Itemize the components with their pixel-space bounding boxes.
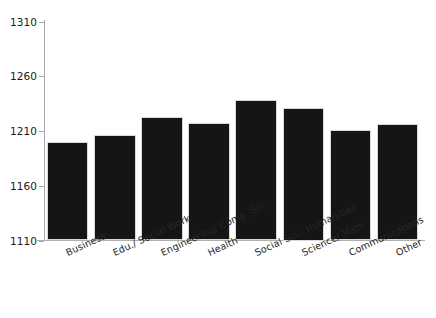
y-axis-tick-label: 1210 [0,125,37,137]
bar [47,142,89,241]
y-axis-tick [39,186,44,187]
y-axis-line [44,20,45,241]
y-axis-tick [39,131,44,132]
y-axis-tick-label: 1160 [0,180,37,192]
y-axis-tick [39,22,44,23]
bar-chart: 13101260121011601110 BusinessEdu./ Socia… [0,0,436,318]
y-axis-tick-label-text: 1310 [3,16,37,28]
y-axis-tick-label-text: 1110 [3,235,37,247]
y-axis-tick-label: 1110 [0,235,37,247]
bar [94,135,136,240]
y-axis-tick-label-text: 1210 [3,125,37,137]
y-axis-tick-label-text: 1260 [3,70,37,82]
y-axis-tick [39,241,44,242]
y-axis-tick-label-text: 1160 [3,180,37,192]
y-axis-tick-label: 1310 [0,16,37,28]
y-axis-tick [39,76,44,77]
y-axis-tick-label: 1260 [0,70,37,82]
